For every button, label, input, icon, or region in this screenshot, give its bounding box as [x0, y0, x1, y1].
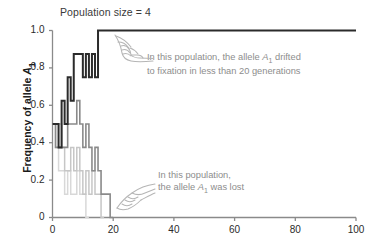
pointing-hand-icon — [113, 33, 155, 79]
annotation-fixation: In this population, the allele A1 drifte… — [147, 52, 301, 78]
annotation-lost-line1: In this population, — [158, 170, 244, 182]
x-tick-label: 80 — [280, 224, 310, 235]
pointing-hand-icon — [114, 182, 158, 218]
annotation-lost-line2: the allele A1 was lost — [158, 182, 244, 196]
series-population-fixed — [53, 31, 357, 148]
x-tick-label: 40 — [159, 224, 189, 235]
y-tick-label: 0.8 — [15, 61, 45, 72]
x-tick-label: 20 — [98, 224, 128, 235]
x-tick-label: 100 — [341, 224, 369, 235]
plot-area — [0, 0, 369, 250]
y-tick-label: 0.2 — [15, 174, 45, 185]
annotation-lost: In this population, the allele A1 was lo… — [158, 170, 244, 196]
y-tick-label: 0.4 — [15, 136, 45, 147]
x-tick-label: 0 — [38, 224, 68, 235]
annotation-fixation-line2: to fixation in less than 20 generations — [147, 66, 301, 78]
x-tick-label: 60 — [220, 224, 250, 235]
genetic-drift-chart: Population size = 4 Frequency of allele … — [0, 0, 369, 250]
y-tick-label: 0 — [15, 211, 45, 222]
y-tick-label: 1.0 — [15, 24, 45, 35]
annotation-fixation-line1: In this population, the allele A1 drifte… — [147, 52, 301, 66]
y-tick-label: 0.6 — [15, 99, 45, 110]
